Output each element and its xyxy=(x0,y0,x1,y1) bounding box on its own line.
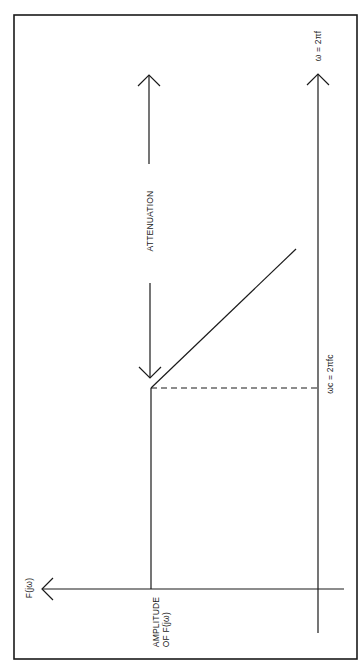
rolloff-slope-line xyxy=(151,249,296,388)
amplitude-label-line1: AMPLITUDE xyxy=(151,597,161,647)
filter-response-diagram xyxy=(0,0,364,670)
f-axis-label: F(jω) xyxy=(24,578,34,598)
frame-border xyxy=(14,15,357,659)
omega-axis-label: ω = 2πf xyxy=(313,31,323,62)
amplitude-label-line2: OF F(jω) xyxy=(161,597,171,647)
cutoff-frequency-label: ωc = 2πfc xyxy=(325,354,335,394)
attenuation-label: ATTENUATION xyxy=(145,191,155,252)
amplitude-label: AMPLITUDE OF F(jω) xyxy=(151,597,171,647)
